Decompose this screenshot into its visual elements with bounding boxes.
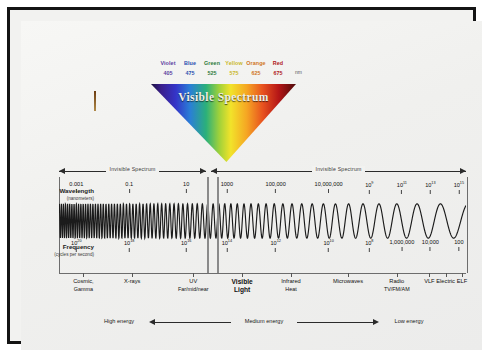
legend-value-yellow: 575 xyxy=(223,68,245,78)
invisible-left-label: Invisible Spectrum xyxy=(106,166,160,172)
legend-value-row: 405 475 525 575 625 675 xyxy=(157,68,289,78)
wavelength-tick-2: 10 xyxy=(183,181,189,193)
legend-cell-red: Red xyxy=(267,58,289,68)
tick-mark xyxy=(226,248,227,252)
visible-spectrum-cone: Visible Spectrum xyxy=(151,84,296,162)
tick-mark xyxy=(76,189,77,193)
arrow-left-icon xyxy=(211,168,217,174)
waveform-svg xyxy=(59,199,466,243)
tick-value: 1011 xyxy=(397,182,407,188)
tick-exponent: 15 xyxy=(460,181,464,185)
legend-name-blue: Blue xyxy=(179,58,201,68)
tick-mark xyxy=(401,190,402,194)
category-label-line: VLF xyxy=(424,278,434,286)
wavelength-tick-7: 1011 xyxy=(397,181,407,194)
legend-cell-blue: Blue xyxy=(179,58,201,68)
wavelength-ticks: 0.0010.1101000100,00010,000,000109101110… xyxy=(60,181,467,201)
poster-frame: Violet Blue Green Yellow Orange xyxy=(7,7,476,344)
category-1: X-rays xyxy=(124,278,140,286)
category-label-line: UV xyxy=(178,278,209,286)
wavelength-tick-9: 1015 xyxy=(454,181,464,194)
category-label-line: ELF xyxy=(457,278,467,286)
category-tick-0 xyxy=(83,273,84,277)
category-band: Cosmic,GammaX-raysUVFar/mid/nearVisibleL… xyxy=(59,273,466,308)
visible-band-divider-right xyxy=(217,177,219,273)
category-tick-7 xyxy=(429,273,430,277)
category-label-line: Visible xyxy=(232,278,253,286)
tick-mark xyxy=(76,248,77,252)
energy-scale: High energy Medium energy Low energy xyxy=(59,317,466,329)
category-label-line: Infrared xyxy=(281,278,301,286)
arrow-right-icon xyxy=(200,168,206,174)
category-0: Cosmic,Gamma xyxy=(73,278,94,293)
category-tick-6 xyxy=(397,273,398,277)
wavelength-scale: 0.0010.1101000100,00010,000,000109101110… xyxy=(60,181,467,201)
arrow-right-icon xyxy=(460,168,466,174)
legend-cell-violet: Violet xyxy=(157,58,179,68)
category-label-line: TV/FM/AM xyxy=(384,286,410,294)
arrow-left-icon xyxy=(59,168,65,174)
energy-medium-label: Medium energy xyxy=(245,318,284,324)
electromagnetic-spectrum-poster: Violet Blue Green Yellow Orange xyxy=(0,0,483,351)
legend-value-orange: 625 xyxy=(245,68,267,78)
tick-mark xyxy=(369,248,370,252)
tick-value: 0.1 xyxy=(125,181,133,187)
category-label-line: Cosmic, xyxy=(73,278,94,286)
visible-color-legend: Violet Blue Green Yellow Orange xyxy=(157,58,289,80)
category-tick-2 xyxy=(193,273,194,277)
category-label-line: Microwaves xyxy=(333,278,363,286)
tick-mark xyxy=(328,248,329,252)
legend-name-red: Red xyxy=(267,58,289,68)
legend-value-cell-red: 675 xyxy=(267,68,289,78)
wavelength-tick-5: 10,000,000 xyxy=(315,181,343,193)
category-5: Microwaves xyxy=(333,278,363,286)
energy-right-line xyxy=(297,322,373,323)
tick-value: 100,000 xyxy=(266,181,286,187)
category-7: VLF xyxy=(424,278,434,286)
tick-mark xyxy=(226,189,227,193)
wavelength-tick-3: 1000 xyxy=(221,181,233,193)
category-tick-5 xyxy=(348,273,349,277)
tick-mark xyxy=(369,190,370,194)
energy-arrow-left-icon xyxy=(149,319,155,325)
category-tick-3 xyxy=(242,273,243,277)
category-tick-1 xyxy=(132,273,133,277)
category-8: Electric xyxy=(436,278,455,286)
category-4: InfraredHeat xyxy=(281,278,301,293)
legend-value-cell-yellow: 575 xyxy=(223,68,245,78)
tick-value: 10 xyxy=(183,181,189,187)
tick-mark xyxy=(186,189,187,193)
category-label-line: Radio xyxy=(384,278,410,286)
tick-value: 109 xyxy=(365,182,373,188)
wavelength-tick-8: 1013 xyxy=(425,181,435,194)
legend-cell-green: Green xyxy=(201,58,223,68)
category-label-line: X-rays xyxy=(124,278,140,286)
legend-value-cell-violet: 405 xyxy=(157,68,179,78)
tick-mark xyxy=(186,248,187,252)
legend-cell-orange: Orange xyxy=(245,58,267,68)
tick-mark xyxy=(328,189,329,193)
energy-arrow-right-icon xyxy=(373,319,379,325)
tick-value: 10,000,000 xyxy=(315,181,343,187)
legend-unit-label: nm xyxy=(295,69,302,75)
category-6: RadioTV/FM/AM xyxy=(384,278,410,293)
legend-name-orange: Orange xyxy=(245,58,267,68)
energy-low-label: Low energy xyxy=(395,318,424,324)
category-2: UVFar/mid/near xyxy=(178,278,209,293)
category-tick-8 xyxy=(446,273,447,277)
legend-value-violet: 405 xyxy=(157,68,179,78)
invisible-right-label: Invisible Spectrum xyxy=(312,166,366,172)
tick-mark xyxy=(458,247,459,251)
category-label-line: Light xyxy=(232,286,253,294)
legend-name-green: Green xyxy=(201,58,223,68)
energy-left-line xyxy=(155,322,231,323)
tick-mark xyxy=(275,248,276,252)
legend-name-yellow: Yellow xyxy=(223,58,245,68)
legend-cell-yellow: Yellow xyxy=(223,58,245,68)
legend-value-green: 525 xyxy=(201,68,223,78)
legend-value-blue: 475 xyxy=(179,68,201,78)
wavelength-tick-0: 0.001 xyxy=(69,181,83,193)
energy-high-label: High energy xyxy=(104,318,134,324)
legend-value-cell-green: 525 xyxy=(201,68,223,78)
wavelength-tick-1: 0.1 xyxy=(125,181,133,193)
